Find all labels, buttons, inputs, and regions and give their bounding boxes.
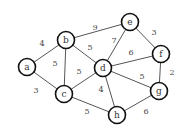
node-g: g (151, 83, 168, 100)
edge-weight-d-f: 6 (128, 48, 133, 57)
edge-weight-e-f: 3 (151, 28, 156, 37)
edge-weight-a-b: 4 (39, 39, 44, 48)
node-b: b (58, 32, 75, 49)
node-label: d (100, 63, 106, 73)
edge-weight-b-e: 9 (92, 23, 97, 32)
node-f: f (153, 46, 170, 63)
edge-weight-d-h: 4 (98, 85, 103, 94)
edge-weight-d-e: 7 (111, 36, 116, 45)
node-label: b (63, 35, 69, 45)
node-e: e (122, 14, 139, 31)
node-label: g (156, 86, 162, 96)
node-label: e (127, 17, 132, 27)
edge-b-e (66, 22, 130, 40)
edge-weight-f-g: 2 (169, 68, 174, 77)
edge-weight-c-h: 5 (84, 107, 89, 116)
node-h: h (109, 107, 126, 124)
weighted-graph-diagram: 43595557654326 abcdefgh (0, 0, 185, 136)
edge-weight-d-g: 5 (139, 72, 144, 81)
edge-weight-b-c: 5 (52, 59, 57, 68)
edge-weight-g-h: 6 (143, 107, 148, 116)
edge-weight-c-d: 5 (76, 67, 81, 76)
node-c: c (56, 86, 73, 103)
node-label: c (61, 89, 66, 99)
node-d: d (95, 60, 112, 77)
node-a: a (19, 59, 36, 76)
edge-weight-a-c: 3 (33, 86, 38, 95)
edge-weight-b-d: 5 (87, 43, 92, 52)
node-label: a (24, 62, 30, 72)
node-label: h (114, 110, 120, 120)
